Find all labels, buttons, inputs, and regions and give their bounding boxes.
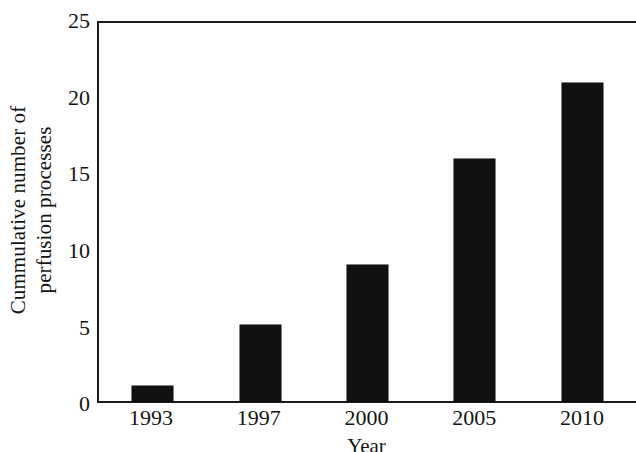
bar[interactable] (240, 325, 281, 401)
bar[interactable] (454, 159, 495, 401)
bar-chart-figure: Cummulative number of perfusion processe… (0, 0, 636, 452)
x-tick-label: 2005 (420, 406, 528, 430)
x-tick-label: 1997 (205, 406, 313, 430)
bar[interactable] (132, 386, 173, 401)
y-tick-label: 25 (44, 10, 90, 32)
bar[interactable] (347, 265, 388, 401)
y-axis-tick-labels: 25 20 15 10 5 0 (44, 0, 90, 452)
y-tick-label: 10 (44, 240, 90, 262)
x-tick-label: 1993 (97, 406, 205, 430)
bar-slot (314, 23, 421, 401)
x-axis-title: Year (97, 434, 636, 452)
y-tick-label: 15 (44, 163, 90, 185)
y-axis-title-line-1: Cummulative number of (5, 106, 31, 315)
y-tick-label: 5 (44, 317, 90, 339)
x-tick-label: 2000 (313, 406, 421, 430)
x-axis-tick-labels: 19931997200020052010 (97, 406, 636, 430)
bar-slot (99, 23, 206, 401)
bar-slot (421, 23, 528, 401)
plot-area (97, 21, 636, 403)
bar-series (99, 23, 636, 401)
bar-slot (529, 23, 636, 401)
x-tick-label: 2010 (528, 406, 636, 430)
y-tick-label: 20 (44, 87, 90, 109)
y-tick-label: 0 (44, 393, 90, 415)
bar[interactable] (562, 83, 603, 401)
bar-slot (206, 23, 313, 401)
